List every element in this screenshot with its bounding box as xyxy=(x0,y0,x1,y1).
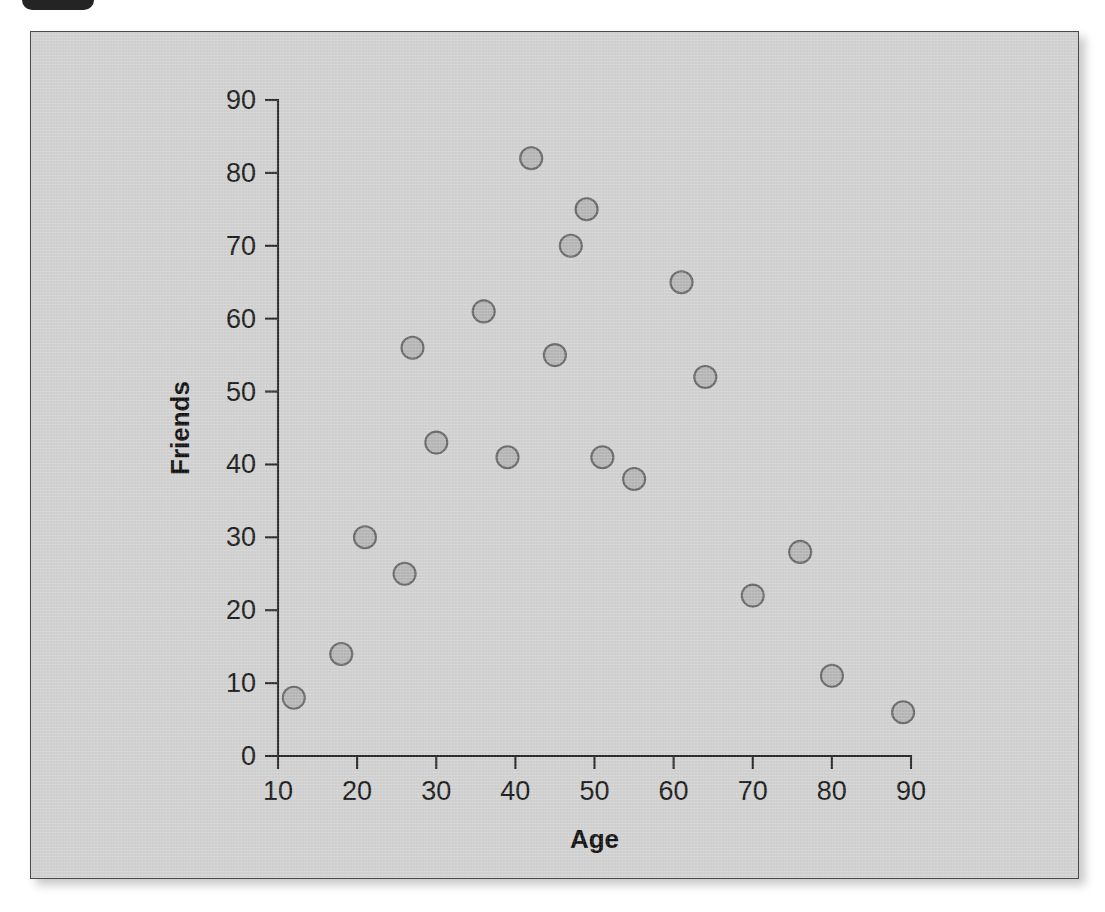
data-point xyxy=(283,687,305,709)
data-point xyxy=(694,366,716,388)
data-point xyxy=(892,701,914,723)
data-point xyxy=(354,526,376,548)
data-point xyxy=(623,468,645,490)
x-tick-label: 30 xyxy=(421,776,451,806)
y-tick-label: 20 xyxy=(226,595,256,625)
data-point xyxy=(402,337,424,359)
data-point xyxy=(473,300,495,322)
x-tick-label: 60 xyxy=(659,776,689,806)
y-tick-label: 50 xyxy=(226,377,256,407)
data-point xyxy=(789,541,811,563)
top-badge[interactable] xyxy=(22,0,94,10)
y-tick-label: 40 xyxy=(226,449,256,479)
x-tick-label: 90 xyxy=(896,776,926,806)
chart-panel: 0102030405060708090102030405060708090Age… xyxy=(30,31,1079,879)
x-tick-label: 20 xyxy=(342,776,372,806)
data-point xyxy=(394,563,416,585)
x-tick-label: 70 xyxy=(738,776,768,806)
y-tick-label: 0 xyxy=(241,741,256,771)
y-tick-label: 30 xyxy=(226,522,256,552)
y-axis-title: Friends xyxy=(165,381,195,475)
data-point xyxy=(576,198,598,220)
y-tick-label: 90 xyxy=(226,85,256,115)
x-tick-label: 40 xyxy=(500,776,530,806)
y-tick-label: 70 xyxy=(226,231,256,261)
data-point xyxy=(330,643,352,665)
data-point xyxy=(742,585,764,607)
data-point xyxy=(544,344,566,366)
y-tick-label: 80 xyxy=(226,158,256,188)
data-point xyxy=(671,271,693,293)
x-tick-label: 10 xyxy=(263,776,293,806)
data-point xyxy=(425,432,447,454)
data-point xyxy=(560,235,582,257)
data-point xyxy=(591,446,613,468)
x-tick-label: 50 xyxy=(579,776,609,806)
y-tick-label: 60 xyxy=(226,304,256,334)
data-point xyxy=(520,147,542,169)
scatter-plot: 0102030405060708090102030405060708090Age… xyxy=(31,32,1078,878)
data-point xyxy=(821,665,843,687)
y-tick-label: 10 xyxy=(226,668,256,698)
x-axis-title: Age xyxy=(570,824,619,854)
data-point xyxy=(497,446,519,468)
x-tick-label: 80 xyxy=(817,776,847,806)
